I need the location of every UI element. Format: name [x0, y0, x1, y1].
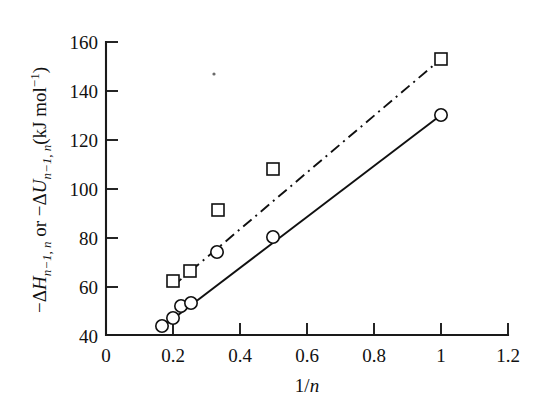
y-axis-title-units-open: (kJ mol: [29, 87, 51, 145]
axes-group: [106, 42, 508, 335]
x-tick-labels: 0 0.2 0.4 0.6 0.8 1 1.2: [101, 345, 520, 366]
y-axis-title-u-subscript: n−1, n: [39, 145, 54, 180]
y-tick-label-140: 140: [70, 81, 99, 102]
y-axis-ticks: [106, 42, 118, 287]
x-tick-label-0.6: 0.6: [295, 345, 319, 366]
axis-lines: [106, 42, 508, 335]
y-tick-label-120: 120: [70, 130, 99, 151]
y-tick-label-60: 60: [79, 277, 98, 298]
svg-text:1/n: 1/n: [295, 375, 319, 396]
x-tick-label-0.2: 0.2: [161, 345, 185, 366]
data-point-circle: [185, 297, 197, 309]
y-tick-label-100: 100: [70, 179, 99, 200]
svg-text:−ΔHn−1, n or −ΔUn−1, n(kJ mol−: −ΔHn−1, n or −ΔUn−1, n(kJ mol−1): [27, 67, 54, 313]
data-point-square: [435, 53, 447, 65]
y-tick-labels: 160 140 120 100 80 60 40: [70, 32, 99, 347]
x-axis-title: 1/n: [295, 375, 319, 396]
data-point-square: [267, 163, 279, 175]
y-tick-label-40: 40: [79, 326, 98, 347]
y-axis-title-units-close: ): [29, 67, 51, 73]
data-point-circle: [267, 231, 279, 243]
data-point-square: [184, 265, 196, 277]
data-point-circle: [211, 246, 223, 258]
scatter-plot-svg: 160 140 120 100 80 60 40 0 0.2 0.4 0.6 0…: [0, 0, 549, 412]
y-axis-title-minus-delta-u: −Δ: [29, 193, 50, 216]
data-point-square: [167, 275, 179, 287]
data-point-circle: [156, 320, 168, 332]
x-tick-label-1: 1: [436, 345, 446, 366]
speck-artifact: [212, 72, 215, 75]
y-axis-title-minus-delta-h: −Δ: [29, 290, 50, 313]
data-point-circle: [435, 109, 447, 121]
series-enthalpy-markers: [167, 53, 447, 287]
y-axis-title-or: or: [29, 216, 50, 241]
x-axis-title-denom: n: [310, 375, 320, 396]
y-tick-label-80: 80: [79, 228, 98, 249]
x-tick-label-0.8: 0.8: [362, 345, 386, 366]
x-tick-label-1.2: 1.2: [496, 345, 520, 366]
y-axis-title: −ΔHn−1, n or −ΔUn−1, n(kJ mol−1): [27, 67, 54, 313]
y-tick-label-160: 160: [70, 32, 99, 53]
chart-figure: 160 140 120 100 80 60 40 0 0.2 0.4 0.6 0…: [0, 0, 549, 412]
fit-line-internal-energy-solid: [161, 115, 441, 328]
data-point-circle: [167, 312, 179, 324]
x-axis-title-numer: 1/: [295, 375, 311, 396]
x-tick-label-0: 0: [101, 345, 111, 366]
x-tick-label-0.4: 0.4: [228, 345, 252, 366]
data-point-square: [212, 204, 224, 216]
y-axis-title-units-exponent: −1: [27, 73, 42, 87]
y-axis-title-h-symbol: H: [29, 275, 50, 291]
y-axis-title-h-subscript: n−1, n: [39, 242, 54, 277]
